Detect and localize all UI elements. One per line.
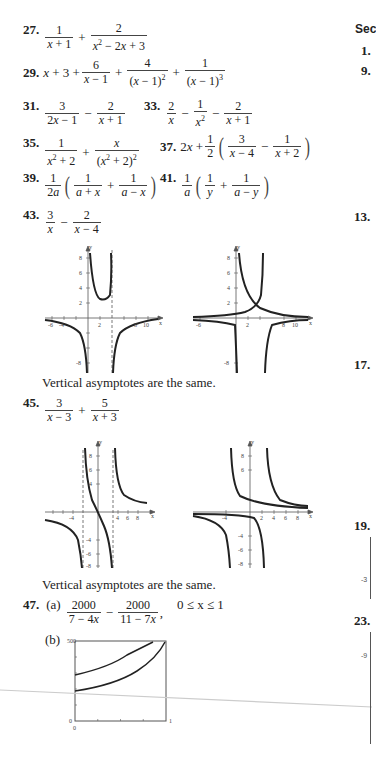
svg-text:-4: -4 <box>59 322 64 328</box>
svg-text:4: 4 <box>116 515 119 521</box>
svg-text:6: 6 <box>284 515 287 521</box>
svg-text:8: 8 <box>282 322 285 328</box>
svg-text:-8: -8 <box>86 563 91 569</box>
answer-31: 31. 32x − 1− 2x + 1 <box>23 96 127 127</box>
item-number: 31. <box>23 98 39 113</box>
item-number: 37. <box>160 139 176 154</box>
svg-text:4: 4 <box>227 285 230 291</box>
svg-text:-8: -8 <box>76 360 81 366</box>
math-expression: 1x2 + 2+ x(x2 + 2)2 <box>43 137 141 168</box>
svg-text:x: x <box>309 513 312 519</box>
svg-text:8: 8 <box>296 515 299 521</box>
part-a-label: (a) <box>46 597 60 612</box>
svg-text:6: 6 <box>79 270 82 276</box>
math-expression: 2x + 12( 3x − 4− 1x + 2) <box>180 133 312 160</box>
item-number-19: 19. <box>354 518 370 534</box>
svg-text:4: 4 <box>272 515 275 521</box>
graph-19-edge <box>370 537 371 599</box>
item-number: 27. <box>23 22 39 37</box>
math-expression: x + 3 + 6x − 1+ 4(x − 1)2+ 1(x − 1)3 <box>43 57 227 88</box>
svg-text:2: 2 <box>260 515 263 521</box>
item-number-17: 17. <box>354 357 370 373</box>
svg-text:4: 4 <box>89 481 92 487</box>
scan-artifact-line <box>0 685 372 710</box>
svg-text:-6: -6 <box>196 322 201 328</box>
math-expression: 12a( 1a + x+ 1a − x) <box>43 172 158 199</box>
svg-text:-4: -4 <box>238 533 243 539</box>
graph-23-edge <box>370 632 371 744</box>
math-expression: 3x − 3+ 5x + 3 <box>43 397 121 424</box>
math-expression: 32x − 1− 2x + 1 <box>43 100 127 127</box>
svg-text:8: 8 <box>241 453 244 459</box>
note-43: Vertical asymptotes are the same. <box>42 375 216 391</box>
svg-text:y: y <box>251 440 254 445</box>
math-expression: 2x− 1x2− 2x + 1 <box>164 98 254 129</box>
graph-19-tick: -3 <box>361 576 367 583</box>
part-b-label: (b) <box>45 632 60 648</box>
graph-43-separate: yx 8642-8 -62810 <box>190 245 315 375</box>
svg-text:2: 2 <box>98 322 101 328</box>
domain: 0 ≤ x ≤ 1 <box>177 597 224 612</box>
svg-text:-4: -4 <box>222 515 227 521</box>
math-expression: 1a( 1y+ 1a − y) <box>180 172 271 199</box>
graph-43-combined: yx 8642-8 -6-42810 <box>40 245 165 375</box>
math-expression: 20007 − 4x− 200011 − 7x, <box>65 599 163 626</box>
section-heading: Sec <box>355 22 376 36</box>
svg-text:2: 2 <box>79 300 82 306</box>
svg-text:x: x <box>151 513 154 519</box>
answer-45: 45. 3x − 3+ 5x + 3 <box>23 393 121 424</box>
graph-45-combined: yx 864 -4-6-8 -4468 <box>42 440 157 570</box>
graph-47b: 500 0 0 1 <box>65 633 180 733</box>
math-expression: 3x− 2x − 4 <box>43 209 102 236</box>
svg-text:0: 0 <box>73 725 76 731</box>
svg-text:-8: -8 <box>238 561 243 567</box>
graph-45-separate: yx 86 -4-6-8 -42468 <box>190 440 315 570</box>
answer-37: 37. 2x + 12( 3x − 4− 1x + 2) <box>160 133 312 160</box>
svg-text:6: 6 <box>89 467 92 473</box>
math-expression: 1x + 1+ 2x2 − 2x + 3 <box>43 22 149 53</box>
svg-text:-8: -8 <box>224 360 229 366</box>
svg-text:x: x <box>309 320 312 326</box>
svg-text:8: 8 <box>134 322 137 328</box>
svg-text:10: 10 <box>292 322 298 328</box>
answer-29: 29. x + 3 + 6x − 1+ 4(x − 1)2+ 1(x − 1)3 <box>23 57 227 88</box>
item-number: 39. <box>23 170 39 185</box>
svg-text:4: 4 <box>79 285 82 291</box>
svg-text:8: 8 <box>79 255 82 261</box>
answer-33: 33. 2x− 1x2− 2x + 1 <box>144 96 254 129</box>
svg-text:6: 6 <box>126 515 129 521</box>
svg-text:-4: -4 <box>69 515 74 521</box>
svg-text:2: 2 <box>246 322 249 328</box>
answer-43: 43. 3x− 2x − 4 <box>23 205 103 236</box>
item-number-23: 23. <box>354 613 370 629</box>
svg-text:0: 0 <box>69 718 72 724</box>
svg-text:-6: -6 <box>238 547 243 553</box>
svg-text:8: 8 <box>227 255 230 261</box>
graph-23-tick: -9 <box>361 652 367 659</box>
answer-41: 41. 1a( 1y+ 1a − y) <box>160 168 271 199</box>
answer-27: 27. 1x + 1+ 2x2 − 2x + 3 <box>23 20 149 53</box>
item-number: 29. <box>23 65 39 80</box>
svg-text:6: 6 <box>227 270 230 276</box>
svg-text:8: 8 <box>89 453 92 459</box>
item-number: 45. <box>23 395 39 410</box>
item-number-9: 9. <box>361 63 371 79</box>
answer-39: 39. 12a( 1a + x+ 1a − x) <box>23 168 158 199</box>
item-number: 35. <box>23 135 39 150</box>
svg-text:-6: -6 <box>48 322 53 328</box>
item-number: 33. <box>144 98 160 113</box>
item-number: 43. <box>23 207 39 222</box>
svg-text:y: y <box>99 440 102 445</box>
svg-text:x: x <box>159 320 162 326</box>
answer-47: 47. (a) 20007 − 4x− 200011 − 7x, 0 ≤ x ≤… <box>23 595 224 626</box>
svg-text:8: 8 <box>136 515 139 521</box>
svg-text:y: y <box>89 245 92 250</box>
svg-text:2: 2 <box>227 300 230 306</box>
item-number-13: 13. <box>354 209 370 225</box>
svg-text:6: 6 <box>241 467 244 473</box>
svg-text:10: 10 <box>143 322 149 328</box>
svg-text:500: 500 <box>67 638 76 644</box>
svg-text:-6: -6 <box>86 551 91 557</box>
answer-35: 35. 1x2 + 2+ x(x2 + 2)2 <box>23 133 141 168</box>
item-number: 41. <box>160 170 176 185</box>
